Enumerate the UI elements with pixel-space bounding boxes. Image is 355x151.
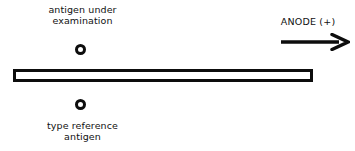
antigen-under-examination-label-line1: antigen under [20, 5, 145, 16]
type-reference-antigen-label-line2: antigen [20, 132, 145, 143]
type-reference-antigen-label-line1: type reference [20, 121, 145, 132]
diagram-canvas: antigen under examination ANODE (+) type… [0, 0, 355, 151]
antigen-under-examination-label-line2: examination [20, 16, 145, 27]
anode-arrow-icon [280, 33, 350, 51]
antigen-under-examination-well-icon [75, 44, 86, 55]
type-reference-antigen-label: type reference antigen [20, 121, 145, 142]
anode-label: ANODE (+) [268, 17, 348, 28]
antigen-under-examination-label: antigen under examination [20, 5, 145, 26]
type-reference-antigen-well-icon [75, 99, 86, 110]
agar-gel-slab [13, 69, 313, 82]
